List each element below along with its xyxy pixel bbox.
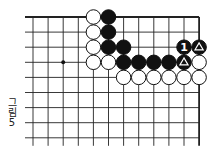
white-stone [131, 70, 146, 85]
white-stone [86, 10, 101, 25]
white-stone [162, 70, 177, 85]
star-points [61, 60, 65, 64]
black-stone [101, 25, 116, 40]
white-stone [147, 70, 162, 85]
white-stone [101, 55, 116, 70]
black-stone [131, 55, 146, 70]
star-point-icon [61, 60, 65, 64]
white-stone [86, 55, 101, 70]
caption-number: 5 [4, 118, 20, 128]
white-stone [192, 55, 207, 70]
black-stone [101, 40, 116, 55]
black-stone [177, 55, 192, 70]
black-stone [192, 40, 207, 55]
black-stone [116, 40, 131, 55]
white-stone [192, 70, 207, 85]
white-stone [116, 70, 131, 85]
black-stone [116, 55, 131, 70]
white-stone [86, 40, 101, 55]
white-stone [86, 25, 101, 40]
move-number-label: 1 [180, 41, 188, 54]
go-board-diagram: 1 [0, 0, 216, 162]
black-stone [147, 55, 162, 70]
white-stone [177, 70, 192, 85]
figure-caption: 그 림 5 [4, 98, 20, 128]
black-stone [162, 55, 177, 70]
black-stone [101, 10, 116, 25]
black-stone: 1 [177, 40, 192, 55]
